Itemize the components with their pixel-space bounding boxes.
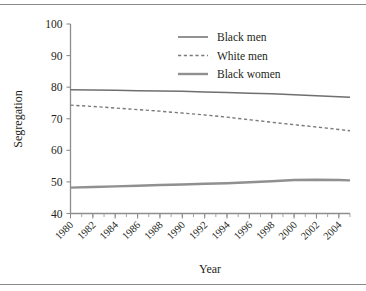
series-line-black-women: [71, 180, 351, 188]
x-tick-label: 1980: [53, 219, 76, 242]
x-tick-label: 1998: [254, 219, 277, 242]
x-tick-label: 1986: [120, 219, 143, 242]
x-tick-label: 1990: [165, 219, 188, 242]
y-tick-label: 100: [45, 18, 63, 30]
x-tick-label: 1984: [98, 219, 121, 242]
legend-label-white-men: White men: [217, 50, 268, 62]
y-axis-tick-labels: 405060708090100: [45, 18, 63, 220]
x-tick-label: 1992: [187, 219, 210, 242]
bottom-divider-rule: [0, 284, 366, 285]
x-axis-tick-labels: 1980198219841986198819901992199419961998…: [53, 219, 344, 242]
y-tick-label: 80: [51, 81, 63, 93]
data-series-group: [71, 90, 351, 188]
series-line-white-men: [71, 105, 351, 131]
y-tick-label: 50: [51, 176, 63, 188]
legend-label-black-women: Black women: [217, 68, 281, 80]
x-tick-label: 1994: [209, 219, 232, 242]
top-divider-rule: [0, 4, 366, 5]
x-tick-label: 1988: [142, 219, 165, 242]
x-tick-label: 2002: [299, 219, 322, 242]
chart-canvas: 405060708090100 198019821984198619881990…: [0, 8, 366, 282]
x-axis-ticks: [71, 214, 339, 219]
chart-legend: Black menWhite menBlack women: [178, 31, 281, 80]
y-tick-label: 90: [51, 50, 63, 62]
y-tick-label: 60: [51, 144, 63, 156]
x-tick-label: 2000: [276, 219, 299, 242]
x-tick-label: 1982: [75, 219, 98, 242]
legend-label-black-men: Black men: [217, 31, 267, 43]
y-tick-label: 40: [51, 208, 63, 220]
x-tick-label: 2004: [321, 219, 344, 242]
x-axis-title: Year: [199, 262, 221, 276]
y-axis-title: Segregation: [11, 90, 25, 147]
series-line-black-men: [71, 90, 351, 98]
segregation-line-chart: 405060708090100 198019821984198619881990…: [0, 8, 366, 282]
y-tick-label: 70: [51, 113, 63, 125]
x-tick-label: 1996: [232, 219, 255, 242]
